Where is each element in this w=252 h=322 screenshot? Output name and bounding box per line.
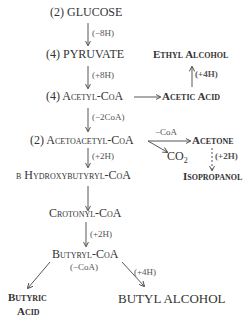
node-butyric-acid-line2: Acid xyxy=(17,305,40,317)
label-minus-coa: (−CoA) xyxy=(70,262,98,272)
node-butyric-acid-line1: Butyric xyxy=(8,291,47,303)
node-glucose: (2) GLUCOSE xyxy=(50,5,122,20)
node-isopropanol: Isopropanol xyxy=(183,170,242,182)
node-butyl-alcohol: BUTYL ALCOHOL xyxy=(118,291,226,307)
node-ethyl-alcohol: Ethyl Alcohol xyxy=(153,48,228,60)
node-co2: CO2 xyxy=(167,149,188,165)
label-plus-2h-a: (+2H) xyxy=(92,151,114,161)
node-acetone: Acetone xyxy=(192,134,234,146)
label-plus-2h-iso: (+2H) xyxy=(215,151,238,161)
node-acetoacetyl-coa: (2) Acetoacetyl-CoA xyxy=(30,133,134,148)
label-minus-coa-acetone: −CoA xyxy=(155,127,177,137)
node-acetyl-coa: (4) Acetyl-CoA xyxy=(46,89,123,104)
node-acetic-acid: Acetic Acid xyxy=(162,90,220,102)
label-plus-4h-ethyl: (+4H) xyxy=(195,69,218,79)
label-plus-8h: (+8H) xyxy=(92,70,114,80)
node-crotonyl-coa: Crotonyl-CoA xyxy=(49,206,122,221)
node-hydroxybutyryl-coa: β Hydroxybutyryl-CoA xyxy=(16,168,131,183)
node-pyruvate: (4) PYRUVATE xyxy=(46,47,124,62)
label-plus-2h-b: (+2H) xyxy=(90,229,112,239)
label-plus-4h-butyl: (+4H) xyxy=(134,267,156,277)
label-minus-2coa: (−2CoA) xyxy=(92,112,125,122)
label-minus-8h: (−8H) xyxy=(92,28,114,38)
node-butyryl-coa: Butyryl-CoA xyxy=(52,247,118,262)
